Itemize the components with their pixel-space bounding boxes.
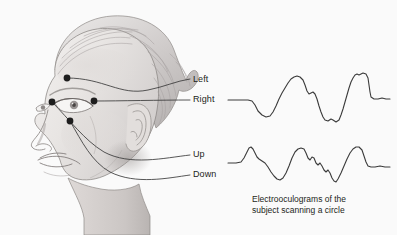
forehead-shading — [56, 48, 136, 92]
electrode-outer-left — [49, 99, 56, 106]
waveform-vertical-eog — [228, 147, 390, 182]
waveform-horizontal-eog — [228, 73, 390, 122]
eog-waveforms — [228, 73, 390, 182]
label-left: Left — [193, 74, 208, 84]
head-illustration — [31, 16, 198, 235]
figure-caption: Electrooculograms of the subject scannin… — [252, 194, 392, 215]
label-up: Up — [193, 149, 205, 159]
neck-shape — [68, 178, 150, 235]
electrode-outer-right — [91, 98, 98, 105]
electrode-above-eye — [64, 75, 71, 82]
label-right: Right — [193, 94, 215, 104]
electrode-below-eye — [67, 118, 74, 125]
label-down: Down — [193, 169, 216, 179]
ear — [126, 104, 151, 151]
